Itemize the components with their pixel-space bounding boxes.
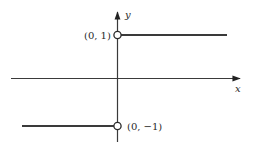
step-function-graph: x y (0, 1) (0, −1) <box>0 0 255 148</box>
open-circle-point-0-neg1 <box>114 122 121 129</box>
open-circle-point-0-1 <box>114 31 121 38</box>
point-label-0-neg1: (0, −1) <box>127 121 162 132</box>
point-label-0-1: (0, 1) <box>84 30 111 41</box>
y-axis-label: y <box>124 9 131 20</box>
x-axis-label: x <box>235 83 241 94</box>
